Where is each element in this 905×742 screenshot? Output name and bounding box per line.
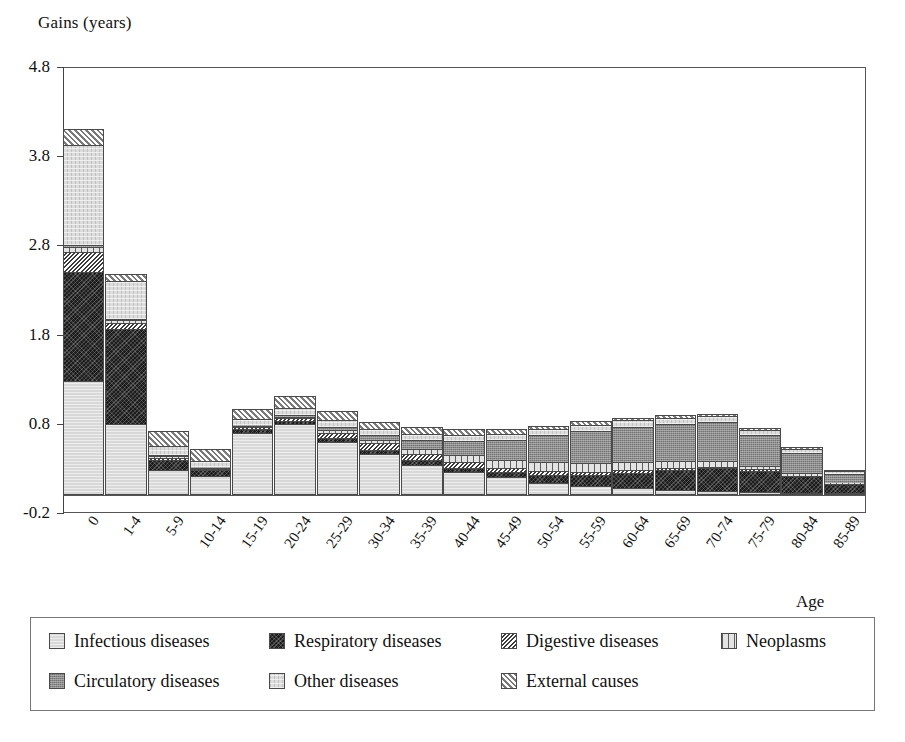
- bar-segment: [528, 471, 569, 475]
- bar-segment: [401, 440, 442, 449]
- bar-segment: [232, 429, 273, 433]
- bar-segment: [570, 463, 611, 472]
- bar-segment: [655, 424, 696, 461]
- bar-segment: [612, 462, 653, 470]
- bar-segment: [612, 418, 653, 421]
- stacked-bar[interactable]: [570, 421, 611, 495]
- bar-segment: [697, 422, 738, 461]
- legend-row: Infectious diseasesRespiratory diseasesD…: [31, 632, 874, 672]
- legend-item[interactable]: Infectious diseases: [49, 632, 209, 650]
- stacked-bar[interactable]: [528, 426, 569, 496]
- bar-segment: [274, 424, 315, 495]
- bar-segment: [63, 129, 104, 144]
- legend-box: Infectious diseasesRespiratory diseasesD…: [30, 617, 875, 711]
- bar-segment: [612, 420, 653, 426]
- legend-label: Circulatory diseases: [74, 672, 219, 690]
- bar-segment: [274, 417, 315, 419]
- bar-segment: [190, 476, 231, 496]
- stacked-bar[interactable]: [148, 431, 189, 495]
- bar-segment: [317, 433, 358, 438]
- bar-segment: [824, 471, 865, 474]
- bar-segment: [443, 468, 484, 472]
- legend-swatch-icon: [49, 673, 65, 689]
- legend-label: Other diseases: [294, 672, 398, 690]
- bar-segment: [148, 460, 189, 471]
- bar-segment: [105, 424, 146, 495]
- bar-segment: [359, 450, 400, 454]
- bar-segment: [317, 411, 358, 420]
- legend-label: External causes: [526, 672, 638, 690]
- stacked-bar[interactable]: [63, 129, 104, 495]
- bar-segment: [190, 470, 231, 475]
- bar-segment: [528, 426, 569, 430]
- bar-segment: [697, 467, 738, 469]
- bar-segment: [739, 435, 780, 465]
- y-axis-tick-label: -0.2: [4, 504, 50, 521]
- bar-segment: [359, 429, 400, 435]
- stacked-bars-group: [63, 67, 866, 513]
- bar-segment: [781, 473, 822, 476]
- y-axis-tick-label: 3.8: [4, 147, 50, 164]
- stacked-bar[interactable]: [105, 274, 146, 495]
- legend-swatch-icon: [501, 673, 517, 689]
- bar-segment: [105, 319, 146, 321]
- legend-swatch-icon: [269, 673, 285, 689]
- bar-segment: [739, 430, 780, 435]
- bar-segment: [359, 435, 400, 439]
- stacked-bar[interactable]: [359, 422, 400, 495]
- bar-segment: [824, 474, 865, 483]
- bar-segment: [359, 422, 400, 429]
- bar-segment: [63, 245, 104, 248]
- bar-segment: [486, 434, 527, 440]
- bar-segment: [359, 440, 400, 444]
- legend-item[interactable]: External causes: [501, 672, 638, 690]
- bar-segment: [486, 429, 527, 433]
- x-axis-title: Age: [796, 592, 824, 612]
- bar-segment: [63, 381, 104, 495]
- bar-segment: [148, 470, 189, 495]
- bar-segment: [486, 472, 527, 477]
- y-axis-tick-label: 1.8: [4, 326, 50, 343]
- stacked-bar[interactable]: [612, 418, 653, 496]
- stacked-bar[interactable]: [655, 415, 696, 495]
- bar-segment: [401, 460, 442, 464]
- bar-segment: [232, 426, 273, 428]
- bar-segment: [655, 415, 696, 418]
- legend-swatch-icon: [721, 633, 737, 649]
- legend-item[interactable]: Digestive diseases: [501, 632, 658, 650]
- y-axis-tick-label: 2.8: [4, 236, 50, 253]
- bar-segment: [401, 427, 442, 433]
- stacked-bar[interactable]: [232, 409, 273, 496]
- bar-segment: [232, 427, 273, 429]
- stacked-bar[interactable]: [190, 449, 231, 495]
- bar-segment: [401, 434, 442, 440]
- stacked-bar[interactable]: [697, 414, 738, 495]
- bar-segment: [443, 435, 484, 441]
- bar-segment: [359, 443, 400, 449]
- bar-segment: [190, 468, 231, 470]
- bar-segment: [739, 469, 780, 471]
- legend-item[interactable]: Other diseases: [269, 672, 398, 690]
- bar-segment: [274, 396, 315, 408]
- bar-segment: [63, 252, 104, 273]
- bar-segment: [655, 418, 696, 424]
- stacked-bar[interactable]: [274, 396, 315, 495]
- bar-segment: [105, 320, 146, 323]
- bar-segment: [105, 329, 146, 424]
- zero-baseline: [63, 495, 866, 496]
- legend-item[interactable]: Respiratory diseases: [269, 632, 441, 650]
- bar-segment: [781, 449, 822, 453]
- legend-row: Circulatory diseasesOther diseasesExtern…: [31, 672, 874, 712]
- bar-segment: [148, 456, 189, 458]
- bar-segment: [528, 475, 569, 483]
- y-axis-tick-label: 4.8: [4, 58, 50, 75]
- bar-segment: [63, 145, 104, 245]
- bar-segment: [105, 274, 146, 281]
- legend-item[interactable]: Circulatory diseases: [49, 672, 219, 690]
- legend-item[interactable]: Neoplasms: [721, 632, 826, 650]
- bar-segment: [63, 272, 104, 381]
- bar-segment: [317, 430, 358, 433]
- bar-segment: [443, 455, 484, 462]
- bar-segment: [528, 429, 569, 435]
- stacked-bar[interactable]: [317, 411, 358, 495]
